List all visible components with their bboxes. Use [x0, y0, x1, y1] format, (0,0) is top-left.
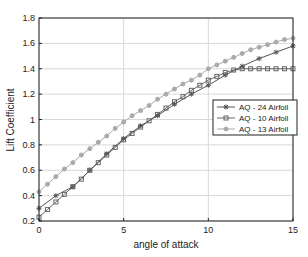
data-point: [189, 92, 194, 97]
data-point: [164, 92, 168, 96]
x-tick-label: 0: [36, 225, 41, 235]
y-tick-label: 1.6: [22, 38, 35, 48]
data-point: [172, 87, 176, 91]
data-point: [198, 73, 202, 77]
y-tick-label: 0.4: [22, 191, 35, 201]
y-tick-label: 0.2: [22, 216, 35, 226]
data-point: [223, 59, 227, 63]
data-point: [138, 123, 143, 128]
data-point: [45, 182, 49, 186]
data-point: [224, 127, 228, 131]
data-point: [274, 40, 278, 44]
legend-label: AQ - 13 Airfoil: [239, 125, 289, 134]
y-tick-label: 0.6: [22, 165, 35, 175]
x-tick-label: 15: [288, 225, 298, 235]
data-point: [274, 50, 279, 55]
data-point: [240, 52, 244, 56]
data-point: [62, 167, 66, 171]
y-tick-label: 1.4: [22, 64, 35, 74]
lift-coefficient-chart: 0510150.20.40.60.811.21.41.61.8 angle of…: [0, 0, 308, 257]
data-point: [223, 73, 228, 78]
legend-label: AQ - 24 Airfoil: [239, 103, 289, 112]
data-point: [130, 114, 134, 118]
data-point: [105, 134, 109, 138]
data-point: [147, 104, 151, 108]
x-tick-label: 5: [121, 225, 126, 235]
data-point: [257, 56, 262, 61]
data-point: [181, 82, 185, 86]
data-point: [206, 67, 210, 71]
data-point: [88, 147, 92, 151]
data-point: [232, 55, 236, 59]
x-axis-label: angle of attack: [133, 239, 199, 250]
data-point: [283, 38, 287, 42]
data-point: [121, 136, 126, 141]
data-point: [249, 48, 253, 52]
legend-label: AQ - 10 Airfoil: [239, 114, 289, 123]
data-point: [156, 97, 160, 101]
data-point: [139, 109, 143, 113]
data-point: [71, 161, 75, 165]
y-tick-label: 1: [30, 115, 35, 125]
data-point: [266, 43, 270, 47]
data-point: [87, 168, 92, 173]
data-point: [54, 175, 58, 179]
data-point: [172, 102, 177, 107]
data-point: [189, 78, 193, 82]
data-point: [240, 64, 245, 69]
data-point: [155, 113, 160, 118]
data-point: [215, 63, 219, 67]
data-point: [104, 151, 109, 156]
data-point: [206, 83, 211, 88]
data-point: [224, 105, 229, 110]
data-point: [70, 184, 75, 189]
data-point: [113, 126, 117, 130]
y-tick-label: 1.8: [22, 13, 35, 23]
x-tick-label: 10: [203, 225, 213, 235]
data-point: [122, 120, 126, 124]
data-point: [96, 140, 100, 144]
y-tick-label: 1.2: [22, 89, 35, 99]
data-point: [257, 45, 261, 49]
data-point: [53, 193, 58, 198]
legend: AQ - 24 AirfoilAQ - 10 AirfoilAQ - 13 Ai…: [213, 100, 297, 135]
y-axis-label: Lift Coefficient: [5, 88, 16, 151]
data-point: [79, 153, 83, 157]
y-tick-label: 0.8: [22, 140, 35, 150]
